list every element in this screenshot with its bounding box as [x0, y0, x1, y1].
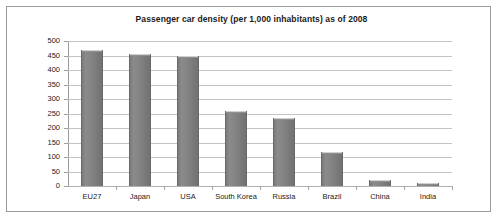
- bar: [369, 180, 391, 186]
- x-axis-tick: [212, 186, 213, 190]
- y-axis-tick-label: 150: [30, 139, 60, 147]
- gridline: [68, 143, 452, 144]
- y-axis-tick-label: 200: [30, 124, 60, 132]
- category-label: EU27: [68, 192, 116, 201]
- y-axis-tick-label: 500: [30, 37, 60, 45]
- x-axis-tick: [260, 186, 261, 190]
- bar: [273, 118, 295, 186]
- category-label: India: [404, 192, 452, 201]
- chart-figure: Passenger car density (per 1,000 inhabit…: [0, 0, 503, 224]
- gridline: [68, 128, 452, 129]
- gridline: [68, 172, 452, 173]
- category-label: Japan: [116, 192, 164, 201]
- y-axis-tick-label: 350: [30, 81, 60, 89]
- y-axis-tick: [64, 143, 68, 144]
- x-axis-tick: [356, 186, 357, 190]
- bar-top-highlight: [370, 180, 390, 182]
- bar-top-highlight: [226, 111, 246, 113]
- y-axis-tick-labels: 500450400350300250200150100500: [28, 0, 60, 224]
- bar-top-highlight: [322, 152, 342, 154]
- y-axis-tick: [64, 99, 68, 100]
- bar: [321, 152, 343, 186]
- bar-top-highlight: [274, 118, 294, 120]
- y-axis-tick-label: 250: [30, 110, 60, 118]
- bar-top-highlight: [82, 50, 102, 52]
- bar-top-highlight: [130, 54, 150, 56]
- y-axis-tick: [64, 70, 68, 71]
- gridline: [68, 85, 452, 86]
- y-axis-tick: [64, 172, 68, 173]
- bar-top-highlight: [418, 183, 438, 185]
- plot-area: [68, 41, 452, 186]
- bar-top-highlight: [178, 56, 198, 58]
- y-axis-tick-label: 400: [30, 66, 60, 74]
- y-axis-tick: [64, 85, 68, 86]
- y-axis-tick-label: 0: [30, 182, 60, 190]
- y-axis-tick-label: 300: [30, 95, 60, 103]
- y-axis-tick: [64, 56, 68, 57]
- y-axis-tick: [64, 114, 68, 115]
- bar: [417, 183, 439, 186]
- y-axis-tick-label: 50: [30, 168, 60, 176]
- x-axis-tick: [404, 186, 405, 190]
- gridline: [68, 41, 452, 42]
- gridline: [68, 99, 452, 100]
- bar: [177, 56, 199, 186]
- y-axis-tick: [64, 186, 68, 187]
- y-axis-tick: [64, 128, 68, 129]
- x-axis-tick: [452, 186, 453, 190]
- gridline: [68, 56, 452, 57]
- bar: [81, 50, 103, 186]
- x-axis-tick: [164, 186, 165, 190]
- bar: [129, 54, 151, 186]
- y-axis-tick: [64, 157, 68, 158]
- chart-title: Passenger car density (per 1,000 inhabit…: [0, 14, 503, 24]
- bar: [225, 111, 247, 186]
- y-axis-tick-label: 450: [30, 52, 60, 60]
- gridline: [68, 70, 452, 71]
- y-axis-tick-label: 100: [30, 153, 60, 161]
- y-axis-tick: [64, 41, 68, 42]
- category-label: Russia: [260, 192, 308, 201]
- gridline: [68, 114, 452, 115]
- x-axis-tick: [116, 186, 117, 190]
- category-label: Brazil: [308, 192, 356, 201]
- category-label: USA: [164, 192, 212, 201]
- category-label: South Korea: [212, 192, 260, 201]
- gridline: [68, 157, 452, 158]
- category-label: China: [356, 192, 404, 201]
- x-axis-tick: [308, 186, 309, 190]
